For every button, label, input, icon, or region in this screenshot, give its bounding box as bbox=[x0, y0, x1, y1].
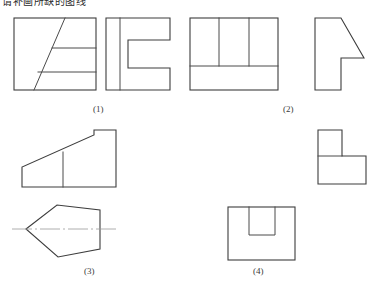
figure-label-4: (4) bbox=[253, 266, 264, 276]
fig2-view-left bbox=[190, 18, 278, 90]
figure-label-1: (1) bbox=[93, 104, 104, 114]
fig3-top-wedge-profile bbox=[22, 130, 116, 187]
fig4-top-step-profile bbox=[318, 130, 366, 184]
fig2-view-right bbox=[315, 18, 364, 90]
figure-label-2: (2) bbox=[283, 104, 294, 114]
fig3-bottom-pentagon-profile bbox=[26, 205, 100, 257]
clipped-header-text: 请补画所缺的图线 bbox=[2, 0, 86, 8]
fig2-right-chamfer-l-profile bbox=[315, 18, 364, 90]
fig1-left-outer-rect bbox=[14, 18, 96, 90]
fig3-view-top bbox=[22, 130, 116, 187]
fig4-bottom-slot-profile bbox=[249, 207, 275, 235]
fig4-view-top bbox=[318, 130, 366, 184]
fig4-view-bottom bbox=[228, 207, 295, 260]
fig4-bottom-outer-rect bbox=[228, 207, 295, 260]
fig2-left-outer-rect bbox=[190, 18, 278, 90]
fig1-view-right bbox=[106, 18, 170, 90]
fig1-right-c-profile bbox=[106, 18, 170, 90]
figure-label-3: (3) bbox=[84, 266, 95, 276]
fig3-view-bottom bbox=[12, 205, 116, 257]
fig1-left-diagonal-line bbox=[34, 18, 65, 90]
drawing-page: 请补画所缺的图线 bbox=[0, 0, 376, 293]
fig1-view-left bbox=[14, 18, 96, 90]
engineering-drawing-canvas bbox=[0, 0, 376, 293]
